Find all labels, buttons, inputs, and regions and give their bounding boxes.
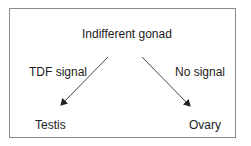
node-ovary: Ovary <box>189 119 221 131</box>
node-testis: Testis <box>35 119 66 131</box>
edge-label-no-signal: No signal <box>175 66 225 78</box>
root-node-label: Indifferent gonad <box>82 28 172 40</box>
edge-label-tdf-signal: TDF signal <box>29 66 87 78</box>
